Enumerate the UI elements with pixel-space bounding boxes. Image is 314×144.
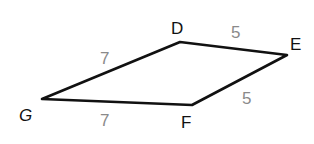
side-label-fg: 7 xyxy=(100,111,109,130)
kite-diagram: D E G F 5 5 7 7 xyxy=(0,0,314,144)
side-label-gd: 7 xyxy=(100,49,109,68)
vertex-label-f: F xyxy=(181,113,191,132)
vertex-label-d: D xyxy=(171,19,183,38)
vertex-label-g: G xyxy=(19,106,32,125)
vertex-label-e: E xyxy=(290,35,301,54)
side-label-de: 5 xyxy=(231,23,240,42)
side-label-ef: 5 xyxy=(242,89,251,108)
